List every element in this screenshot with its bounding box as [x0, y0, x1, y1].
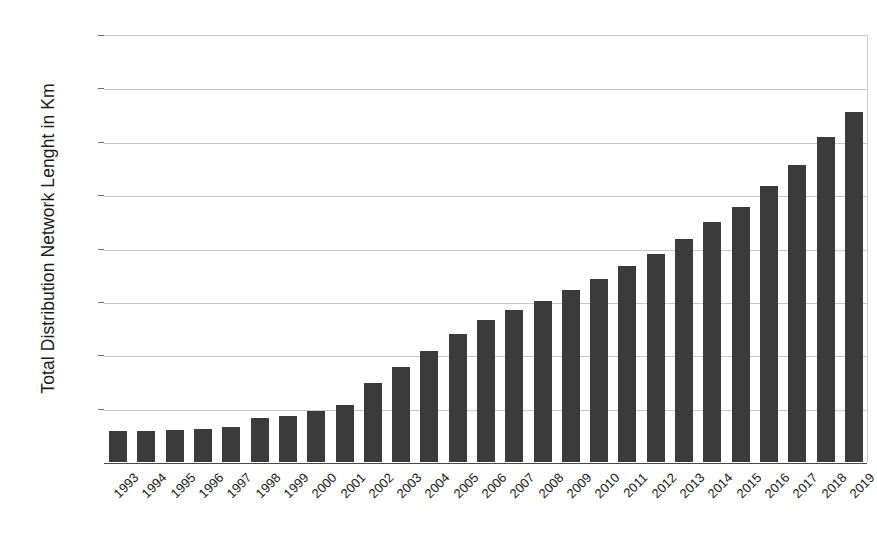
bar [675, 239, 693, 462]
gridline [104, 143, 867, 144]
bar [194, 429, 212, 462]
bar [817, 137, 835, 462]
bar [534, 301, 552, 462]
gridline [104, 89, 867, 90]
bar [845, 112, 863, 462]
bar [703, 222, 721, 462]
bar [222, 427, 240, 462]
bar [279, 416, 297, 462]
bar [590, 279, 608, 462]
gridline [104, 303, 867, 304]
y-axis-title: Total Distribution Network Lenght in Km [38, 19, 59, 459]
bar [732, 207, 750, 462]
bar [647, 254, 665, 462]
bar [477, 320, 495, 462]
bar [307, 411, 325, 462]
bar [364, 383, 382, 462]
axis-baseline [104, 463, 867, 464]
bar [166, 430, 184, 462]
bar [109, 431, 127, 462]
plot-area [104, 35, 868, 462]
gridline [104, 250, 867, 251]
bar [505, 310, 523, 462]
bar [449, 334, 467, 462]
bar [562, 290, 580, 462]
bar [420, 351, 438, 462]
bar [618, 266, 636, 462]
bar [336, 405, 354, 462]
bar [251, 418, 269, 462]
bar [392, 367, 410, 462]
gridline [104, 196, 867, 197]
bar [760, 186, 778, 462]
bar [137, 431, 155, 462]
bar [788, 165, 806, 462]
